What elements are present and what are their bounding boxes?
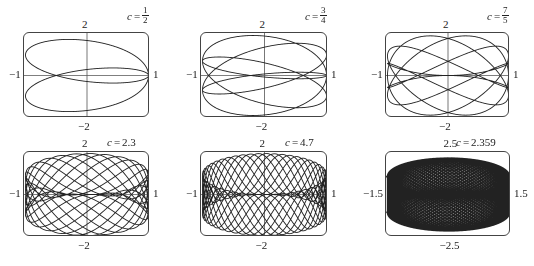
tick-label-top: 2: [82, 19, 88, 30]
parameter-label: c=75: [487, 6, 509, 25]
tick-label-top: 2: [82, 138, 88, 149]
param-eq: =: [134, 10, 140, 22]
param-var: c: [285, 136, 290, 148]
tick-label-bottom: −2: [78, 240, 90, 251]
parameter-label: c=12: [127, 6, 149, 25]
tick-label-left: −1: [371, 69, 383, 80]
plot-frame: [23, 151, 149, 236]
param-var: c: [456, 136, 461, 148]
tick-label-right: 1.5: [514, 188, 528, 199]
param-eq: =: [114, 136, 120, 148]
tick-label-left: −1.5: [363, 188, 383, 199]
tick-label-bottom: −2.5: [440, 240, 460, 251]
parameter-label: c=4.7: [285, 136, 314, 148]
plot-frame: [385, 32, 509, 117]
parameter-label: c=2.359: [456, 136, 496, 148]
tick-label-top: 2: [443, 19, 449, 30]
param-var: c: [107, 136, 112, 148]
tick-label-left: −1: [9, 188, 21, 199]
curve-canvas: [201, 33, 327, 117]
tick-label-bottom: −2: [256, 240, 268, 251]
param-eq: =: [312, 10, 318, 22]
curve-canvas: [386, 152, 510, 236]
param-eq: =: [494, 10, 500, 22]
tick-label-top: 2: [260, 19, 266, 30]
param-value: 2.359: [471, 136, 496, 148]
param-fraction: 75: [502, 6, 509, 25]
param-eq: =: [463, 136, 469, 148]
parameter-label: c=34: [305, 6, 327, 25]
param-fraction: 12: [142, 6, 149, 25]
param-value: 2.3: [122, 136, 136, 148]
plot-frame: [200, 32, 327, 117]
tick-label-left: −1: [9, 69, 21, 80]
tick-label-bottom: −2: [78, 121, 90, 132]
param-value: 4.7: [300, 136, 314, 148]
tick-label-right: 1: [153, 188, 159, 199]
plot-frame: [385, 151, 510, 236]
param-eq: =: [292, 136, 298, 148]
tick-label-bottom: −2: [439, 121, 451, 132]
curve-canvas: [24, 33, 149, 117]
tick-label-right: 1: [331, 188, 337, 199]
tick-label-left: −1: [186, 69, 198, 80]
param-var: c: [487, 10, 492, 22]
tick-label-left: −1: [186, 188, 198, 199]
param-fraction: 34: [320, 6, 327, 25]
plot-frame: [200, 151, 327, 236]
curve-canvas: [386, 33, 509, 117]
plot-frame: [23, 32, 149, 117]
curve-canvas: [201, 152, 327, 236]
tick-label-bottom: −2: [256, 121, 268, 132]
tick-label-right: 1: [513, 69, 519, 80]
parameter-label: c=2.3: [107, 136, 136, 148]
tick-label-right: 1: [331, 69, 337, 80]
param-var: c: [305, 10, 310, 22]
tick-label-right: 1: [153, 69, 159, 80]
tick-label-top: 2: [260, 138, 266, 149]
param-var: c: [127, 10, 132, 22]
curve-canvas: [24, 152, 149, 236]
